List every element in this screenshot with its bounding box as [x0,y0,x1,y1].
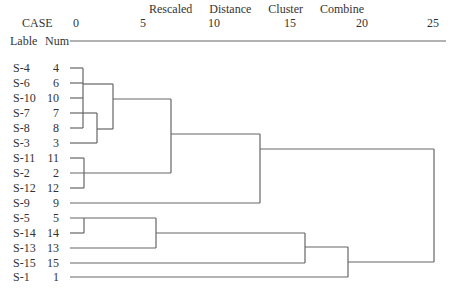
dendrogram-tree [0,0,451,292]
